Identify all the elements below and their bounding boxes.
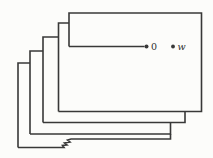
branch-point-0-label: 0 xyxy=(151,41,157,51)
sheet4-left-edge xyxy=(30,51,43,134)
sheet3-bottom-right-edge xyxy=(30,123,171,135)
sheet2-left-edge xyxy=(59,23,70,112)
sheet4-bottom-torn-edge xyxy=(18,134,171,148)
figure-canvas: 0 w xyxy=(0,0,213,158)
stacked-sheets-diagram xyxy=(0,0,213,158)
point-w-dot xyxy=(171,45,175,49)
branch-point-0-dot xyxy=(145,45,149,49)
point-w-label: w xyxy=(178,41,186,51)
sheet3-left-edge xyxy=(43,37,59,123)
sheet2-bottom-right-edge xyxy=(43,112,185,123)
sheet5-left-edge xyxy=(18,63,30,148)
front-sheet-outline xyxy=(59,13,202,112)
